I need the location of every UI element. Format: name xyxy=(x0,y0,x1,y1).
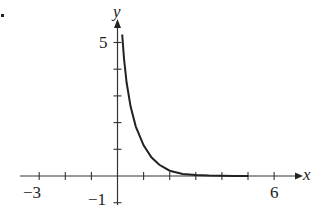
axes xyxy=(20,24,298,205)
axis-ticks xyxy=(39,43,274,203)
x-tick-label-neg3: −3 xyxy=(23,184,41,201)
y-tick-label-neg1: −1 xyxy=(88,191,106,208)
chart-plot-area xyxy=(0,0,316,210)
x-axis-arrow-icon xyxy=(295,173,303,180)
x-tick-label-6: 6 xyxy=(270,184,279,201)
x-axis-label: x xyxy=(303,166,311,183)
y-tick-label-5: 5 xyxy=(99,34,108,51)
y-axis-label: y xyxy=(113,3,121,20)
data-curve xyxy=(122,35,248,177)
